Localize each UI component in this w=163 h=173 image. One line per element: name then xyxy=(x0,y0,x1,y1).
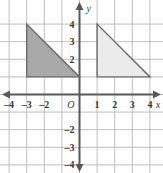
coordinate-plane-figure: –4–3–21234432–2–3–4 Oxy xyxy=(0,0,163,173)
x-axis-label: x xyxy=(155,99,161,110)
x-tick-label: –2 xyxy=(38,99,49,110)
x-tick-label: 1 xyxy=(95,99,100,110)
y-axis-label: y xyxy=(86,3,92,14)
graph-canvas: –4–3–21234432–2–3–4 Oxy xyxy=(0,0,163,173)
y-tick-label: 3 xyxy=(70,36,75,47)
x-tick-label: –3 xyxy=(21,99,32,110)
x-tick-label: 3 xyxy=(130,99,135,110)
y-tick-label: 2 xyxy=(70,54,75,65)
x-tick-label: –4 xyxy=(3,99,14,110)
origin-label: O xyxy=(67,99,74,110)
y-tick-label: 4 xyxy=(70,19,75,30)
x-tick-label: 2 xyxy=(112,99,117,110)
y-tick-label: –3 xyxy=(64,142,75,153)
y-tick-label: –2 xyxy=(64,124,75,135)
y-tick-label: –4 xyxy=(64,159,75,170)
x-tick-label: 4 xyxy=(147,99,152,110)
